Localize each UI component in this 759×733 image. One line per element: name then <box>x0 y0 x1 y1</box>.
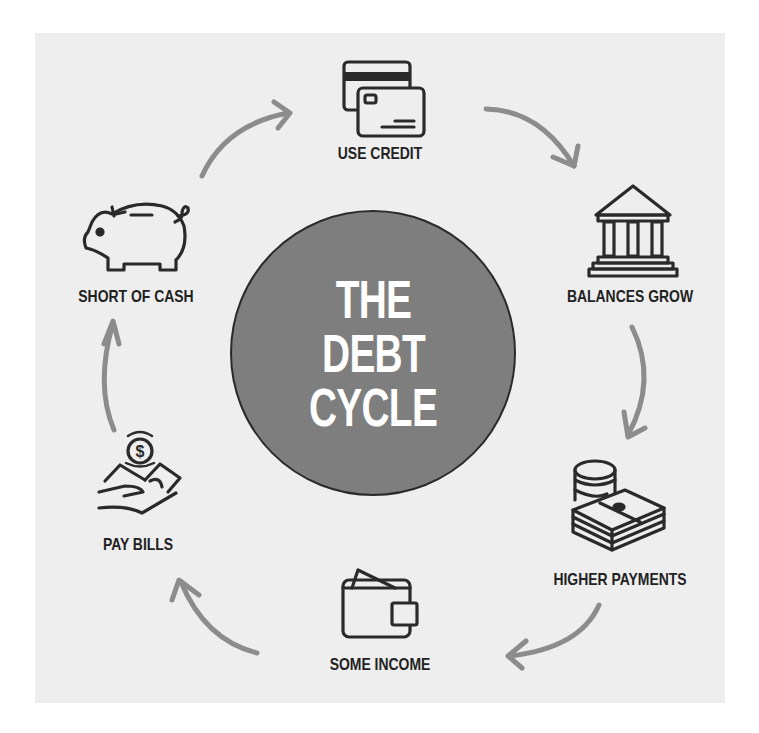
arrow-short-of-cash-to-use-credit-icon <box>202 102 290 176</box>
step-label-higher-payments: HIGHER PAYMENTS <box>553 570 686 590</box>
coins-and-cash-stack-icon <box>573 461 664 550</box>
arrow-use-credit-to-balances-grow-icon <box>486 109 578 166</box>
step-label-pay-bills: PAY BILLS <box>103 535 173 555</box>
step-label-some-income: SOME INCOME <box>330 655 431 675</box>
debt-cycle-center-circle: THE DEBT CYCLE <box>230 210 516 496</box>
arrow-balances-grow-to-higher-payments-icon <box>624 327 645 437</box>
title-line-2: DEBT <box>322 326 425 380</box>
piggy-bank-icon <box>84 204 188 270</box>
hand-with-money-icon: $ <box>99 432 180 513</box>
title-line-3: CYCLE <box>309 380 437 434</box>
step-label-short-of-cash: SHORT OF CASH <box>78 287 193 307</box>
arrow-pay-bills-to-short-of-cash-icon <box>104 321 119 430</box>
wallet-icon <box>343 570 417 637</box>
arrow-higher-payments-to-some-income-icon <box>508 605 599 668</box>
step-label-use-credit: USE CREDIT <box>338 144 422 164</box>
step-label-balances-grow: BALANCES GROW <box>567 287 693 307</box>
bank-building-icon <box>589 186 677 276</box>
arrow-some-income-to-pay-bills-icon <box>172 580 257 653</box>
svg-text:$: $ <box>136 443 145 460</box>
credit-cards-icon <box>344 62 424 136</box>
title-line-1: THE <box>335 272 411 326</box>
